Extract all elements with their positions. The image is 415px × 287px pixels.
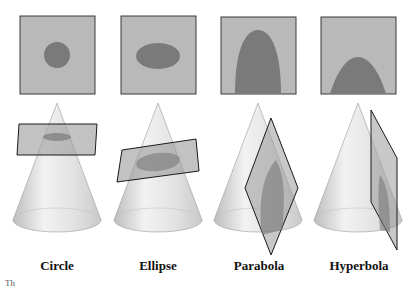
cone-ellipse	[114, 103, 202, 232]
caption-stub: Th	[5, 278, 15, 287]
label-hyperbola: Hyperbola	[314, 258, 404, 274]
panel-circle	[20, 16, 95, 94]
label-circle: Circle	[12, 258, 102, 274]
panel-parabola	[221, 17, 296, 94]
cone-parabola	[214, 103, 302, 255]
panel-ellipse	[121, 16, 196, 94]
panel-hyperbola	[321, 17, 396, 94]
cone-hyperbola	[314, 103, 402, 250]
label-ellipse: Ellipse	[113, 258, 203, 274]
label-parabola: Parabola	[214, 258, 304, 274]
cone-circle	[13, 103, 101, 232]
conic-sections-diagram	[0, 0, 415, 287]
